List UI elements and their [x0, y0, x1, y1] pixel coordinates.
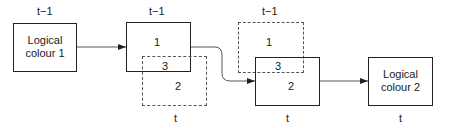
arrow-stage2-to-stage3 — [191, 47, 255, 81]
connector-arrows — [0, 0, 449, 128]
